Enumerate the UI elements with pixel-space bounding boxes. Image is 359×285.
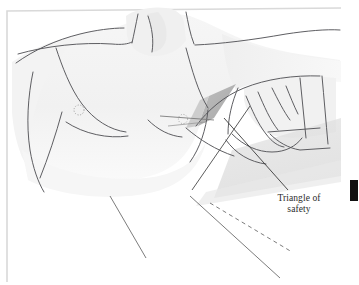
anatomical-illustration [0, 0, 359, 285]
triangle-of-safety-label-line2: safety [262, 204, 336, 215]
page-edge-mark [350, 180, 358, 201]
triangle-of-safety-label-line1: Triangle of [277, 193, 320, 203]
figure-container: Triangle of safety [0, 0, 359, 285]
solid-guide-line-left [110, 196, 146, 258]
triangle-of-safety-label: Triangle of safety [262, 193, 336, 214]
